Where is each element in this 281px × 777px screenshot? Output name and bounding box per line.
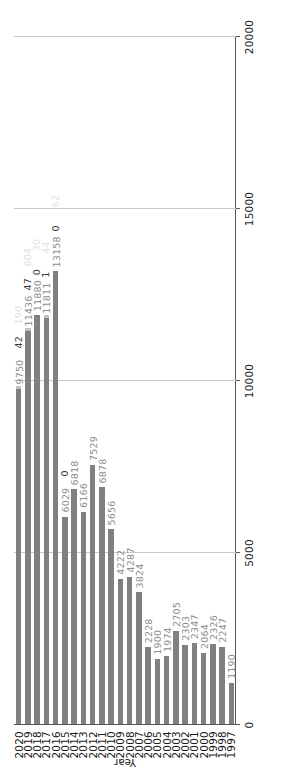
bar[interactable] bbox=[34, 315, 40, 724]
bar-secondary-label: 0 bbox=[49, 225, 60, 231]
bar[interactable] bbox=[210, 644, 216, 724]
bar-tertiary-label: 62 bbox=[49, 195, 60, 208]
bar-row: 5656 bbox=[108, 37, 114, 724]
bar-value-label: 6166 bbox=[78, 483, 89, 508]
bar-row: 2326 bbox=[210, 37, 216, 724]
bar-value-label: 2705 bbox=[170, 602, 181, 627]
bar-row: 60290 bbox=[62, 37, 68, 724]
bar-value-label: 6029 bbox=[59, 488, 70, 513]
bar-value-label: 9750 bbox=[13, 360, 24, 385]
category-tick-label: 2020 bbox=[13, 731, 25, 759]
bar[interactable] bbox=[201, 653, 207, 724]
bar-row: 1974 bbox=[164, 37, 170, 724]
bar-secondary-segment[interactable] bbox=[25, 328, 31, 331]
value-tick-mark bbox=[236, 380, 240, 381]
bar-row: 13158062 bbox=[53, 37, 59, 724]
bar-row: 4287 bbox=[127, 37, 133, 724]
bar[interactable] bbox=[145, 647, 151, 724]
chart-figure-rotator: 1190224723262064234723032705197419002228… bbox=[0, 0, 281, 777]
bar-tertiary-label: 190 bbox=[12, 306, 23, 325]
bar-value-label: 5656 bbox=[106, 500, 117, 525]
bar[interactable] bbox=[164, 656, 170, 724]
bar-row: 2705 bbox=[173, 37, 179, 724]
value-tick-mark bbox=[236, 724, 240, 725]
bar-row: 7529 bbox=[90, 37, 96, 724]
bar-secondary-segment[interactable] bbox=[44, 315, 50, 318]
value-tick-label: 15000 bbox=[243, 192, 255, 226]
bar-secondary-segment[interactable] bbox=[16, 386, 22, 389]
bar[interactable] bbox=[53, 271, 59, 724]
bar[interactable] bbox=[71, 489, 77, 724]
bar-row: 2064 bbox=[201, 37, 207, 724]
bar-row: 975042190 bbox=[16, 37, 22, 724]
bar-row: 2247 bbox=[219, 37, 225, 724]
bar[interactable] bbox=[219, 647, 225, 724]
bar-value-label: 1190 bbox=[226, 654, 237, 679]
bar-value-label: 7529 bbox=[87, 436, 98, 461]
bar[interactable] bbox=[127, 577, 133, 724]
bar-tertiary-label: 604 bbox=[21, 248, 32, 267]
bars-group: 1190224723262064234723032705197419002228… bbox=[14, 37, 235, 724]
bar-row: 2228 bbox=[145, 37, 151, 724]
bar[interactable] bbox=[90, 465, 96, 724]
value-tick-mark bbox=[236, 36, 240, 37]
bar-row: 4222 bbox=[118, 37, 124, 724]
bar-value-label: 6818 bbox=[69, 460, 80, 485]
bar[interactable] bbox=[44, 318, 50, 724]
bar-value-label: 13158 bbox=[50, 236, 61, 267]
bar-secondary-label: 0 bbox=[31, 269, 42, 275]
value-tick-label: 5000 bbox=[243, 539, 255, 567]
bar[interactable] bbox=[81, 512, 87, 724]
bar-secondary-label: 0 bbox=[58, 470, 69, 476]
bar-row: 1190 bbox=[229, 37, 235, 724]
bar[interactable] bbox=[182, 645, 188, 724]
bar-secondary-label: 42 bbox=[12, 336, 23, 349]
bar[interactable] bbox=[192, 643, 198, 724]
bar[interactable] bbox=[62, 517, 68, 724]
value-axis-line bbox=[14, 724, 236, 725]
bar-row: 11880030 bbox=[34, 37, 40, 724]
category-axis-line bbox=[235, 37, 236, 725]
bar-value-label: 2228 bbox=[143, 618, 154, 643]
value-tick-label: 20000 bbox=[243, 20, 255, 54]
value-tick-label: 10000 bbox=[243, 364, 255, 398]
bar-row: 11811144 bbox=[44, 37, 50, 724]
plot-area: 1190224723262064234723032705197419002228… bbox=[14, 37, 236, 725]
bar-row: 6166 bbox=[81, 37, 87, 724]
bar[interactable] bbox=[118, 579, 124, 724]
bar-row: 2347 bbox=[192, 37, 198, 724]
bar-value-label: 4222 bbox=[115, 550, 126, 575]
bar[interactable] bbox=[136, 592, 142, 724]
bar-row: 2303 bbox=[182, 37, 188, 724]
bar[interactable] bbox=[108, 529, 114, 724]
value-tick-label: 0 bbox=[243, 722, 255, 729]
bar-row: 6818 bbox=[71, 37, 77, 724]
bar[interactable] bbox=[173, 631, 179, 724]
bar[interactable] bbox=[99, 487, 105, 724]
bar-secondary-label: 47 bbox=[21, 278, 32, 291]
value-tick-mark bbox=[236, 208, 240, 209]
bar-row: 6878 bbox=[99, 37, 105, 724]
bar-chart-figure: 1190224723262064234723032705197419002228… bbox=[0, 0, 281, 777]
bar-value-label: 6878 bbox=[96, 458, 107, 483]
bar[interactable] bbox=[229, 683, 235, 724]
bar[interactable] bbox=[25, 331, 31, 724]
value-tick-mark bbox=[236, 552, 240, 553]
bar-row: 1900 bbox=[155, 37, 161, 724]
bar[interactable] bbox=[155, 659, 161, 724]
category-axis-title: Year bbox=[114, 757, 136, 769]
bar-row: 3824 bbox=[136, 37, 142, 724]
bar[interactable] bbox=[16, 389, 22, 724]
bar-value-label: 11436 bbox=[22, 295, 33, 326]
bar-row: 1143647604 bbox=[25, 37, 31, 724]
